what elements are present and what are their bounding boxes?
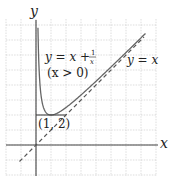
curve-label-condition: (x > 0) bbox=[47, 66, 88, 80]
curve-label-equation: y = x + bbox=[44, 50, 90, 64]
y-axis-label: y bbox=[29, 3, 39, 19]
function-graph-figure: y x y = x + 1 x (x > 0) y = x (1, 2) bbox=[0, 0, 174, 183]
line-label: y = x bbox=[126, 53, 158, 67]
curve-label: y = x + 1 x (x > 0) bbox=[44, 49, 96, 80]
x-axis-label: x bbox=[160, 135, 168, 151]
curve-label-frac-den: x bbox=[90, 58, 94, 66]
graph-canvas: y x y = x + 1 x (x > 0) y = x (1, 2) bbox=[0, 0, 174, 183]
grid-lines bbox=[6, 19, 157, 176]
curve-label-frac-num: 1 bbox=[91, 49, 95, 57]
point-label: (1, 2) bbox=[38, 117, 70, 131]
